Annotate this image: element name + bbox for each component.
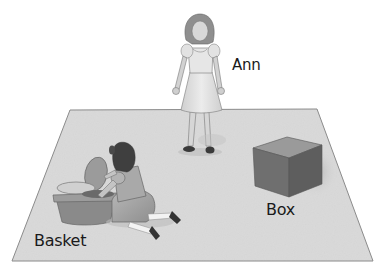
box-object — [253, 137, 322, 197]
label-box: Box — [266, 202, 295, 218]
label-ann: Ann — [232, 58, 260, 73]
label-basket: Basket — [34, 233, 86, 249]
scene-illustration — [0, 0, 390, 270]
ann-shadow — [198, 134, 226, 146]
